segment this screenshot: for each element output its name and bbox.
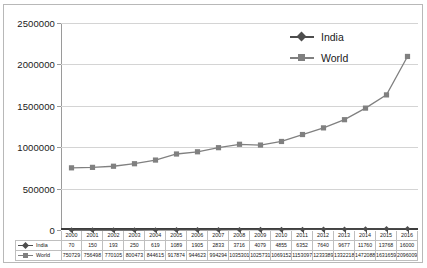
legend-label-india: India: [321, 31, 344, 43]
table-cell: 193: [103, 241, 124, 251]
chart-container: 05000001000000150000020000002500000 Indi…: [3, 4, 423, 263]
world-line-marker-icon: [290, 52, 314, 64]
table-cell: 3716: [229, 241, 250, 251]
table-header-year: 2010: [271, 231, 292, 241]
table-header-year: 2006: [187, 231, 208, 241]
chart-legend: India World: [290, 29, 380, 71]
table-cell: 16000: [397, 241, 418, 251]
data-point-marker: [174, 151, 179, 156]
table-header-year: 2016: [397, 231, 418, 241]
table-cell: 1153097: [292, 251, 313, 261]
table-cell: 9677: [334, 241, 355, 251]
table-header-year: 2011: [292, 231, 313, 241]
data-point-marker: [405, 54, 410, 59]
legend-item-world[interactable]: World: [290, 50, 380, 66]
table-header-row: 2000200120022003200420052006200720082009…: [16, 231, 418, 241]
table-header-year: 2000: [61, 231, 82, 241]
table-cell: 7640: [313, 241, 334, 251]
table-header-year: 2009: [250, 231, 271, 241]
table-row-label-world: World: [16, 251, 62, 261]
table-header-year: 2008: [229, 231, 250, 241]
table-cell: 11760: [355, 241, 376, 251]
table-cell: 994294: [208, 251, 229, 261]
table-header-year: 2005: [166, 231, 187, 241]
table-cell: 756498: [82, 251, 103, 261]
india-line-marker-icon: [17, 241, 34, 250]
table-cell: 1905: [187, 241, 208, 251]
table-header-year: 2013: [334, 231, 355, 241]
table-cell: 13768: [376, 241, 397, 251]
table-cell: 1332218: [334, 251, 355, 261]
table-header-year: 2015: [376, 231, 397, 241]
world-line-marker-icon: [17, 251, 34, 260]
table-cell: 4079: [250, 241, 271, 251]
data-point-marker: [279, 139, 284, 144]
data-point-marker: [237, 142, 242, 147]
table-cell: 750729: [61, 251, 82, 261]
table-cell: 1089: [166, 241, 187, 251]
table-header-year: 2004: [145, 231, 166, 241]
table-row-label-india: India: [16, 241, 62, 251]
series-line-world: [72, 56, 408, 167]
table-cell: 1025731: [250, 251, 271, 261]
table-cell: 619: [145, 241, 166, 251]
data-point-marker: [111, 164, 116, 169]
table-cell: 2096009: [397, 251, 418, 261]
data-point-marker: [321, 125, 326, 130]
y-axis-tick-label: 1500000: [17, 100, 55, 111]
data-point-marker: [132, 161, 137, 166]
table-cell: 150: [82, 241, 103, 251]
table-cell: 770105: [103, 251, 124, 261]
data-point-marker: [195, 149, 200, 154]
table-cell: 70: [61, 241, 82, 251]
table-cell: 1035301: [229, 251, 250, 261]
table-header-year: 2012: [313, 231, 334, 241]
legend-label-world: World: [321, 52, 348, 64]
data-point-marker: [342, 117, 347, 122]
table-cell: 250: [124, 241, 145, 251]
data-point-marker: [90, 165, 95, 170]
table-cell: 917874: [166, 251, 187, 261]
table-header-year: 2014: [355, 231, 376, 241]
table-corner-cell: [16, 231, 62, 241]
y-axis-tick-label: 500000: [23, 183, 55, 194]
legend-item-india[interactable]: India: [290, 29, 380, 45]
table-cell: 800473: [124, 251, 145, 261]
data-point-marker: [384, 92, 389, 97]
table-cell: 844615: [145, 251, 166, 261]
table-row-label-text: World: [36, 251, 50, 260]
data-point-marker: [69, 165, 74, 170]
table-header-year: 2007: [208, 231, 229, 241]
data-point-marker: [258, 142, 263, 147]
table-header-year: 2002: [103, 231, 124, 241]
table-cell: 4855: [271, 241, 292, 251]
data-table: 2000200120022003200420052006200720082009…: [15, 231, 418, 261]
data-point-marker: [153, 157, 158, 162]
y-axis-tick-label: 2000000: [17, 59, 55, 70]
table-cell: 1631659: [376, 251, 397, 261]
table-row: India70150193250619108919052833371640794…: [16, 241, 418, 251]
y-axis-tick-label: 2500000: [17, 18, 55, 29]
table-cell: 1233389: [313, 251, 334, 261]
table-row: World75072975649877010580047384461591787…: [16, 251, 418, 261]
table-cell: 2833: [208, 241, 229, 251]
table-cell: 1472088: [355, 251, 376, 261]
data-point-marker: [363, 106, 368, 111]
table-header-year: 2001: [82, 231, 103, 241]
y-axis-tick-label: 1000000: [17, 142, 55, 153]
data-point-marker: [300, 132, 305, 137]
table-cell: 944623: [187, 251, 208, 261]
data-point-marker: [216, 145, 221, 150]
table-cell: 1069152: [271, 251, 292, 261]
table-cell: 6352: [292, 241, 313, 251]
table-header-year: 2003: [124, 231, 145, 241]
table-row-label-text: India: [36, 241, 48, 250]
india-line-marker-icon: [290, 31, 314, 43]
